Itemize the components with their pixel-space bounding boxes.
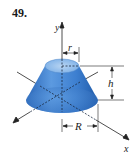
r-label: r [68,42,72,53]
y-axis-label: y [54,22,60,33]
x-axis-label: x [123,143,129,154]
z-axis [17,112,30,120]
z-axis-arrow-icon [13,117,19,123]
x-axis-arrow-icon [123,134,129,140]
frustum-diagram: y r h R x [0,0,136,158]
x-axis [96,120,126,138]
h-label: h [108,77,114,89]
y-axis-arrow-icon [60,22,64,28]
R-label: R [74,120,82,132]
